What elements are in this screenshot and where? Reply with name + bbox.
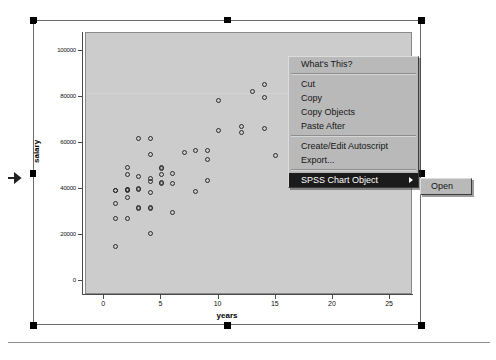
x-tick-mark <box>103 295 104 299</box>
data-point <box>125 187 130 192</box>
context-menu[interactable]: What's This?CutCopyCopy ObjectsPaste Aft… <box>288 56 419 188</box>
x-tick-label: 15 <box>271 300 279 307</box>
data-point <box>125 195 130 200</box>
data-point <box>216 98 221 103</box>
menu-item-what-s-this[interactable]: What's This? <box>289 57 418 71</box>
resize-handle-bottom-right[interactable] <box>418 322 425 329</box>
data-point <box>159 165 164 170</box>
data-point <box>170 210 175 215</box>
data-point <box>148 152 153 157</box>
y-tick-mark <box>78 280 82 281</box>
data-point <box>136 174 141 179</box>
x-tick-mark <box>160 295 161 299</box>
chevron-right-icon <box>409 177 413 183</box>
x-tick-mark <box>218 295 219 299</box>
data-point <box>136 186 141 191</box>
menu-item-cut[interactable]: Cut <box>289 77 418 91</box>
x-tick-label: 0 <box>101 300 105 307</box>
data-point <box>216 128 221 133</box>
data-point <box>159 180 164 185</box>
page-separator-rule <box>8 342 490 343</box>
y-tick-label: 40000 <box>60 185 76 191</box>
menu-item-copy-objects[interactable]: Copy Objects <box>289 105 418 119</box>
menu-item-paste-after[interactable]: Paste After <box>289 119 418 133</box>
data-point <box>148 231 153 236</box>
data-point <box>239 124 244 129</box>
resize-handle-bottom-center[interactable] <box>224 322 231 329</box>
data-point <box>182 150 187 155</box>
x-axis-line <box>82 294 413 295</box>
data-point <box>193 148 198 153</box>
y-axis-line <box>82 32 83 295</box>
x-tick-mark <box>332 295 333 299</box>
y-axis-title: salary <box>32 140 41 163</box>
data-point <box>148 190 153 195</box>
spss-chart-object-submenu[interactable]: Open <box>420 178 472 195</box>
y-tick-label: 0 <box>73 277 76 283</box>
x-tick-label: 25 <box>385 300 393 307</box>
x-tick-label: 20 <box>328 300 336 307</box>
data-point <box>125 165 130 170</box>
y-tick-label: 80000 <box>60 93 76 99</box>
y-tick-mark <box>78 50 82 51</box>
y-tick-mark <box>78 188 82 189</box>
data-point <box>193 189 198 194</box>
data-point <box>262 95 267 100</box>
data-point <box>125 172 130 177</box>
menu-separator <box>291 73 416 75</box>
data-point <box>262 82 267 87</box>
menu-item-spss-chart-object[interactable]: SPSS Chart Object <box>289 173 418 187</box>
data-point <box>273 153 278 158</box>
y-tick-mark <box>78 96 82 97</box>
data-point <box>125 216 130 221</box>
data-point <box>262 126 267 131</box>
menu-separator <box>291 135 416 137</box>
y-tick-label: 100000 <box>57 47 76 53</box>
y-tick-mark <box>78 142 82 143</box>
document-page: 020000400006000080000100000 0510152025 s… <box>0 0 496 360</box>
data-point <box>113 244 118 249</box>
resize-handle-middle-right[interactable] <box>418 170 425 177</box>
x-tick-mark <box>275 295 276 299</box>
x-tick-label: 10 <box>214 300 222 307</box>
data-point <box>170 181 175 186</box>
object-anchor-icon <box>8 170 22 182</box>
resize-handle-top-right[interactable] <box>418 17 425 24</box>
y-tick-label: 60000 <box>60 139 76 145</box>
x-tick-mark <box>389 295 390 299</box>
data-point <box>113 216 118 221</box>
data-point <box>136 136 141 141</box>
menu-separator <box>291 169 416 171</box>
data-point <box>113 188 118 193</box>
y-tick-label: 20000 <box>60 231 76 237</box>
menu-item-create-edit-autoscript[interactable]: Create/Edit Autoscript <box>289 139 418 153</box>
data-point <box>148 205 153 210</box>
submenu-item-open[interactable]: Open <box>421 179 471 194</box>
y-tick-mark <box>78 234 82 235</box>
data-point <box>205 148 210 153</box>
data-point <box>113 201 118 206</box>
menu-item-copy[interactable]: Copy <box>289 91 418 105</box>
data-point <box>159 172 164 177</box>
x-axis-title: years <box>36 311 418 320</box>
menu-item-export[interactable]: Export... <box>289 153 418 167</box>
data-point <box>205 178 210 183</box>
data-point <box>205 157 210 162</box>
x-tick-label: 5 <box>159 300 163 307</box>
data-point <box>239 130 244 135</box>
data-point <box>170 171 175 176</box>
data-point <box>148 136 153 141</box>
resize-handle-bottom-left[interactable] <box>30 322 37 329</box>
